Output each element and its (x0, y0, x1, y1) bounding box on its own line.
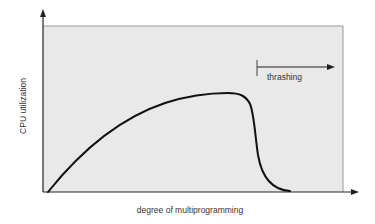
plot-area (43, 26, 343, 192)
thrashing-chart: thrashing degree of multiprogramming CPU… (0, 0, 375, 224)
thrashing-label: thrashing (267, 72, 302, 82)
y-axis-label: CPU utilization (18, 78, 28, 134)
x-axis-label: degree of multiprogramming (137, 205, 244, 215)
x-axis-arrowhead-icon (351, 189, 359, 195)
y-axis-arrowhead-icon (40, 9, 46, 17)
